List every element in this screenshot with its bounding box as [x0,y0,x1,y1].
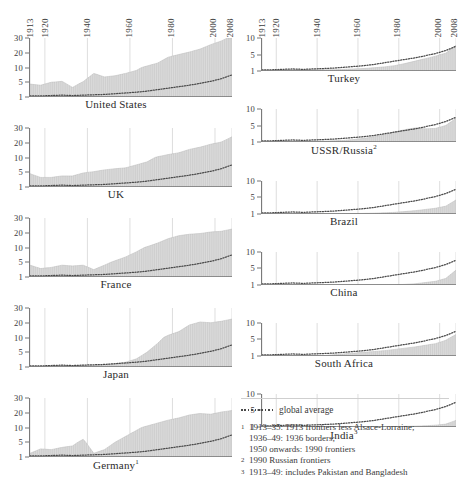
plot-area: 30201051 [0,398,232,457]
chart-canvas [262,109,456,142]
chart-panel-ussr-russia: 1051USSR/Russia2 [232,109,456,156]
y-axis: 30201051 [0,218,30,277]
y-tick-label-20: 20 [14,319,23,327]
y-tick-label-5: 5 [18,168,23,176]
x-tick-label-1980: 1980 [392,18,402,38]
footnote-line: 1990 Russian frontiers [249,455,331,466]
y-tick-label-30: 30 [14,34,23,42]
legend-divider [241,398,449,399]
y-tick-label-1: 1 [18,453,23,461]
footnote-item: 11913–35: 1913 frontiers less Alsace-Lor… [241,422,451,454]
y-tick-label-10: 10 [246,319,255,327]
y-tick-label-5: 5 [250,264,255,272]
y-tick-label-10: 10 [246,34,255,42]
y-axis: 1051 [232,181,262,214]
chart-caption-text: France [100,278,131,290]
right-column: 1913192019401960198020002008 1051Turkey1… [232,0,456,440]
y-tick-label-10: 10 [246,177,255,185]
chart-caption: China [232,286,456,298]
y-tick-label-5: 5 [18,78,23,86]
chart-panel-china: 1051China [232,252,456,298]
y-tick-label-1: 1 [18,273,23,281]
y-axis: 30201051 [0,308,30,367]
chart-caption: France [0,278,232,290]
chart-canvas [30,398,232,457]
y-tick-label-30: 30 [14,304,23,312]
x-tick-label-1920: 1920 [40,18,50,38]
plot-area: 30201051 [0,308,232,367]
chart-canvas [262,38,456,71]
dotted-line-icon [241,409,275,411]
chart-caption-text: United States [85,98,147,110]
area-series [262,45,456,71]
y-tick-label-5: 5 [18,438,23,446]
footnote-line: 1936–49: 1936 borders; [249,433,414,444]
x-tick-label-2008: 2008 [449,18,459,38]
chart-canvas [262,252,456,285]
y-tick-label-5: 5 [18,258,23,266]
legend-global-average: global average [241,405,451,415]
x-tick-label-1913: 1913 [25,18,35,38]
x-axis-year-labels-left: 1913192019401960198020002008 [0,0,232,38]
y-tick-label-1: 1 [250,138,255,146]
y-tick-label-10: 10 [14,424,23,432]
area-series [262,334,456,355]
plot-area: 1051 [232,323,456,356]
footnote-item: 21990 Russian frontiers [241,455,451,466]
y-tick-label-1: 1 [250,352,255,360]
chart-canvas [262,323,456,356]
x-tick-label-1913: 1913 [257,18,267,38]
y-tick-label-5: 5 [250,193,255,201]
y-tick-label-10: 10 [246,105,255,113]
footnote-text: 1913–49: includes Pakistan and Banglades… [249,467,407,478]
right-panel-stack: 1051Turkey1051USSR/Russia21051Brazil1051… [232,38,456,440]
area-series [262,118,456,142]
y-tick-label-1: 1 [250,281,255,289]
chart-caption: Japan [0,368,232,380]
y-axis: 30201051 [0,128,30,187]
chart-canvas [262,181,456,214]
y-axis: 30201051 [0,38,30,97]
y-tick-label-20: 20 [14,229,23,237]
left-panel-stack: 30201051United States30201051UK30201051F… [0,38,232,471]
chart-caption-text: Japan [103,368,129,380]
chart-canvas [30,218,232,277]
y-tick-label-10: 10 [14,244,23,252]
area-series [30,411,232,457]
x-tick-label-1960: 1960 [124,18,134,38]
x-tick-label-1980: 1980 [166,18,176,38]
area-series [30,137,232,187]
chart-caption-text: Germany [93,459,135,471]
plot-area: 1051 [232,181,456,214]
area-series [30,229,232,277]
x-tick-label-1940: 1940 [82,18,92,38]
chart-panel-france: 30201051France [0,218,232,290]
chart-panel-uk: 30201051UK [0,128,232,200]
chart-panel-turkey: 1051Turkey [232,38,456,84]
plot-area: 1051 [232,252,456,285]
footnote-marker: 2 [241,455,246,466]
legend-label-global-average: global average [279,405,333,415]
y-axis: 1051 [232,323,262,356]
footnote-text: 1990 Russian frontiers [249,455,331,466]
chart-panel-united-states: 30201051United States [0,38,232,110]
y-axis: 1051 [232,109,262,142]
chart-caption-text: Brazil [330,215,358,227]
area-series [30,38,232,97]
y-tick-label-10: 10 [14,64,23,72]
footnote-marker: 1 [241,422,246,454]
area-series [30,319,232,367]
chart-panel-germany: 30201051Germany1 [0,398,232,471]
plot-area: 30201051 [0,38,232,97]
y-tick-label-30: 30 [14,394,23,402]
x-tick-label-2000: 2000 [208,18,218,38]
y-tick-label-5: 5 [250,335,255,343]
x-axis-year-labels-right: 1913192019401960198020002008 [232,0,456,38]
x-tick-label-1920: 1920 [271,18,281,38]
y-tick-label-20: 20 [14,139,23,147]
chart-caption-text: China [330,286,357,298]
y-tick-label-30: 30 [14,124,23,132]
chart-panel-brazil: 1051Brazil [232,181,456,227]
y-tick-label-1: 1 [18,93,23,101]
